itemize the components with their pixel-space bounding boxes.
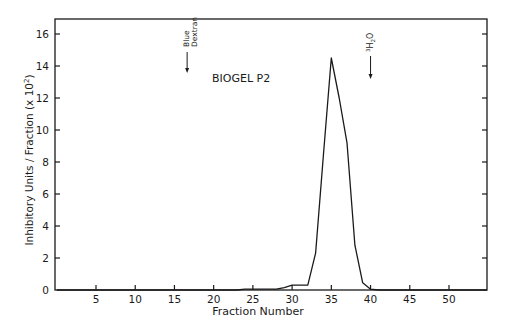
arrowhead-icon xyxy=(185,68,189,73)
y-tick-label: 14 xyxy=(36,60,50,72)
y-tick-label: 16 xyxy=(36,28,50,40)
y-axis-label: Inhibitory Units / Fraction (x 102) xyxy=(23,74,35,245)
x-tick-label: 45 xyxy=(403,293,416,305)
y-tick-label: 12 xyxy=(36,92,49,104)
x-tick-label: 20 xyxy=(207,293,220,305)
plot-frame xyxy=(55,19,487,290)
y-tick-label: 6 xyxy=(42,188,49,200)
elution-markers: BlueDextran3H2O xyxy=(182,17,375,79)
y-tick-label: 2 xyxy=(42,252,49,264)
annotation-biogel-p2: BIOGEL P2 xyxy=(212,72,270,85)
y-tick-label: 4 xyxy=(42,220,49,232)
x-axis-label: Fraction Number xyxy=(212,305,304,318)
data-line xyxy=(57,58,487,290)
y-tick-label: 8 xyxy=(42,156,49,168)
y-tick-label: 0 xyxy=(42,284,49,296)
x-tick-label: 30 xyxy=(285,293,298,305)
chromatography-chart: 0246810121416 5101520253035404550 Fracti… xyxy=(0,0,510,328)
marker-label-tritiated-water: 3H2O xyxy=(365,33,376,52)
y-tick-label: 10 xyxy=(36,124,49,136)
x-axis-ticks: 5101520253035404550 xyxy=(93,285,456,305)
x-tick-label: 10 xyxy=(129,293,142,305)
x-tick-label: 40 xyxy=(364,293,377,305)
x-tick-label: 15 xyxy=(168,293,181,305)
x-tick-label: 35 xyxy=(325,293,338,305)
marker-label-blue-dextran-2: Dextran xyxy=(190,17,199,47)
y-axis-ticks: 0246810121416 xyxy=(36,28,487,296)
x-tick-label: 25 xyxy=(246,293,259,305)
arrowhead-icon xyxy=(369,74,373,79)
x-tick-label: 50 xyxy=(442,293,455,305)
x-tick-label: 5 xyxy=(93,293,100,305)
